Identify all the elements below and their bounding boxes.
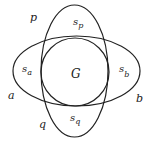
label-s-p: sp [73, 16, 83, 30]
label-q: q [39, 118, 46, 131]
label-g: G [71, 67, 81, 81]
venn-diagram: p q a b G sp sq sa sb [0, 0, 152, 141]
label-a: a [8, 89, 15, 102]
label-s-q: sq [70, 112, 80, 126]
label-s-a: sa [22, 63, 32, 77]
label-p: p [30, 11, 37, 24]
label-s-b: sb [119, 63, 129, 79]
label-b: b [136, 92, 143, 105]
